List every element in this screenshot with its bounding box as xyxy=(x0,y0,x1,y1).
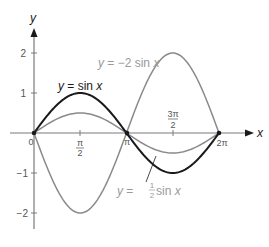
x-tick-2pi: 2π xyxy=(216,138,227,148)
y-axis-arrow-icon xyxy=(31,28,38,37)
y-tick-neg2: −2 xyxy=(17,208,29,219)
sine-graph: y x 2 1 −1 −2 0 π 2 π 3π 2 2π y = sin x … xyxy=(0,0,269,247)
x-tick-pi: π xyxy=(124,137,130,147)
svg-text:sin x: sin x xyxy=(156,184,182,198)
svg-text:2: 2 xyxy=(77,148,82,158)
point-2pi xyxy=(217,131,222,136)
x-tick-pi-half: π 2 xyxy=(76,138,84,158)
label-sin-x: y = sin x xyxy=(57,79,103,93)
x-tick-3pi-half: 3π 2 xyxy=(167,109,178,130)
x-axis-label: x xyxy=(256,126,264,140)
point-origin xyxy=(32,131,37,136)
svg-text:y =: y = xyxy=(116,184,133,198)
y-tick-2: 2 xyxy=(20,48,26,59)
x-tick-0: 0 xyxy=(28,137,33,147)
svg-text:2: 2 xyxy=(170,120,175,130)
x-axis-arrow-icon xyxy=(245,130,254,137)
label-neg2-sin-x: y = −2 sin x xyxy=(97,56,160,70)
label-half-sin-x: y = 1 2 sin x xyxy=(116,181,182,200)
svg-text:π: π xyxy=(77,138,83,148)
y-axis-label: y xyxy=(29,11,37,25)
point-pi xyxy=(125,131,130,136)
svg-text:3π: 3π xyxy=(167,109,178,119)
y-tick-neg1: −1 xyxy=(17,168,29,179)
svg-text:2: 2 xyxy=(150,191,155,200)
y-tick-1: 1 xyxy=(20,88,26,99)
svg-text:1: 1 xyxy=(150,181,155,190)
